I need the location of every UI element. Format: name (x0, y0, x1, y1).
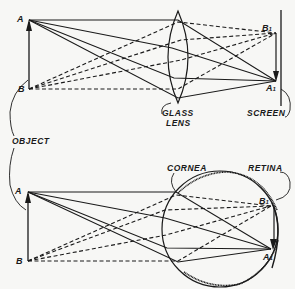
rays-from-A-top (29, 20, 276, 98)
glass-label: GLASS (162, 109, 194, 118)
label-A1-top: A1 (266, 84, 276, 94)
optics-diagram: A B B1 A1 GLASS LENS SCREEN OBJECT A B B… (0, 0, 295, 289)
screen-label: SCREEN (247, 109, 285, 118)
rays-from-B-top (29, 22, 276, 89)
retina-label-curve (276, 172, 290, 200)
object-label: OBJECT (12, 137, 49, 146)
label-B-bottom: B (16, 257, 23, 266)
retina-label: RETINA (248, 164, 283, 173)
label-B1-bottom: B1 (259, 197, 269, 207)
label-B-top: B (18, 85, 25, 94)
cornea-label-curve (171, 173, 176, 192)
cornea-label: CORNEA (167, 164, 207, 173)
label-A-top: A (17, 15, 24, 24)
label-A-bottom: A (15, 187, 22, 196)
object-label-curve-bottom (10, 148, 27, 210)
rays-from-B-bottom (28, 195, 271, 261)
label-A1-bottom: A1 (263, 253, 273, 263)
label-B1-top: B1 (262, 24, 272, 34)
lens-label: LENS (166, 119, 191, 128)
